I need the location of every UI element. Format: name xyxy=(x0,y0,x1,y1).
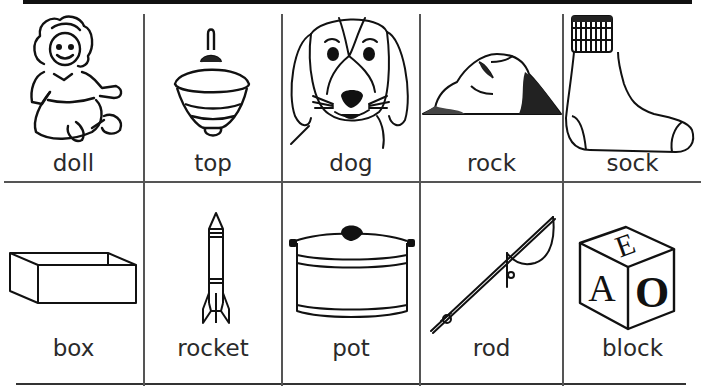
card-label: top xyxy=(145,150,281,176)
card-label: sock xyxy=(564,150,701,176)
rocket-icon xyxy=(145,183,281,343)
doll-icon xyxy=(4,4,143,154)
card-label: rod xyxy=(421,335,562,361)
dog-icon xyxy=(283,4,419,154)
card-label: doll xyxy=(4,150,143,176)
fishing-rod-icon xyxy=(421,183,562,343)
card-doll: doll xyxy=(4,4,143,181)
card-block: E A O block xyxy=(564,183,701,383)
card-rock: rock xyxy=(421,4,562,181)
box-icon xyxy=(4,183,143,343)
card-label: dog xyxy=(283,150,419,176)
card-dog: dog xyxy=(283,4,419,181)
rock-icon xyxy=(421,4,562,154)
block-letter-left: A xyxy=(588,267,616,309)
bottom-rule xyxy=(16,383,686,385)
alphabet-block-icon: E A O xyxy=(564,183,701,343)
sock-icon xyxy=(564,4,701,154)
card-pot: pot xyxy=(283,183,419,383)
card-label: pot xyxy=(283,335,419,361)
spinning-top-icon xyxy=(145,4,281,154)
card-sock: sock xyxy=(564,4,701,181)
card-label: box xyxy=(4,335,143,361)
card-rod: rod xyxy=(421,183,562,383)
pot-icon xyxy=(283,183,419,343)
card-rocket: rocket xyxy=(145,183,281,383)
card-top: top xyxy=(145,4,281,181)
card-label: rock xyxy=(421,150,562,176)
card-box: box xyxy=(4,183,143,383)
card-label: rocket xyxy=(145,335,281,361)
block-letter-right: O xyxy=(635,268,669,317)
card-label: block xyxy=(564,335,701,361)
